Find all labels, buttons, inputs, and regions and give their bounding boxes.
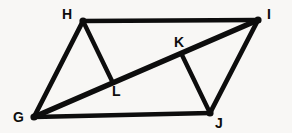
segment-JI — [210, 20, 258, 113]
vertex-label-G: G — [13, 110, 24, 124]
geometry-figure-canvas: H I K L G J — [0, 0, 292, 133]
segment-HI — [83, 20, 258, 21]
vertex-label-L: L — [112, 84, 121, 98]
segments-group — [34, 20, 258, 117]
geometry-figure-svg — [0, 0, 292, 133]
vertex-dot-J — [206, 109, 213, 116]
vertex-label-I: I — [267, 7, 271, 21]
vertex-label-J: J — [215, 116, 223, 130]
segment-GI-diagonal — [34, 20, 258, 117]
vertex-dot-G — [30, 113, 37, 120]
vertex-label-K: K — [174, 35, 184, 49]
vertex-dot-I — [254, 16, 261, 23]
segment-KJ — [182, 55, 210, 113]
segment-HL — [83, 21, 112, 81]
segment-GH — [34, 21, 83, 117]
segment-GJ — [34, 113, 210, 117]
vertex-dot-H — [79, 17, 86, 24]
vertex-label-H: H — [62, 7, 72, 21]
